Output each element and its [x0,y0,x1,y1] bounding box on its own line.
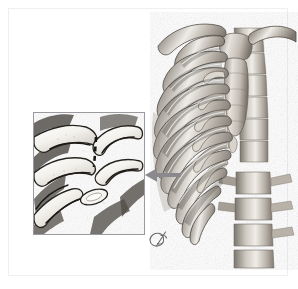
artist-monogram [147,230,171,250]
anatomical-figure-plate: Anterior thoracic cage with magnified co… [0,0,298,289]
magnified-detail-panel[interactable] [33,112,145,235]
figure-title: Anterior thoracic cage with magnified co… [0,0,1,1]
inset-pointer-arrow [145,166,181,184]
ribcage-3d-render [150,12,298,270]
figure-subject: Human rib cage (three-dimensional recons… [0,0,1,1]
